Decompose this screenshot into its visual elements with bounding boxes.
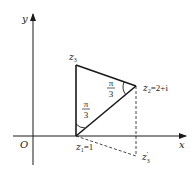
point-label-z3-prime: z3′ xyxy=(141,150,150,164)
complex-plane-diagram: y x O z3 z2=2+i z1=1 z3′ π 3 π 3 xyxy=(0,0,195,173)
point-label-z3: z3 xyxy=(68,52,77,63)
point-label-z1: z1=1 xyxy=(75,142,93,153)
angle-z2-denominator: 3 xyxy=(109,89,114,99)
x-axis-label: x xyxy=(179,139,185,150)
angle-z1-denominator: 3 xyxy=(84,110,89,120)
angle-z1-numerator: π xyxy=(84,99,89,109)
y-axis-label: y xyxy=(21,13,28,24)
angle-arc-z2 xyxy=(123,82,126,95)
segment-z3-z2 xyxy=(76,65,136,86)
angle-z2-numerator: π xyxy=(109,78,114,88)
angle-label-z2: π 3 xyxy=(107,78,115,99)
angle-arc-z1 xyxy=(76,124,85,128)
origin-label: O xyxy=(20,139,28,150)
point-label-z2: z2=2+i xyxy=(142,83,168,94)
angle-label-z1: π 3 xyxy=(82,99,90,120)
